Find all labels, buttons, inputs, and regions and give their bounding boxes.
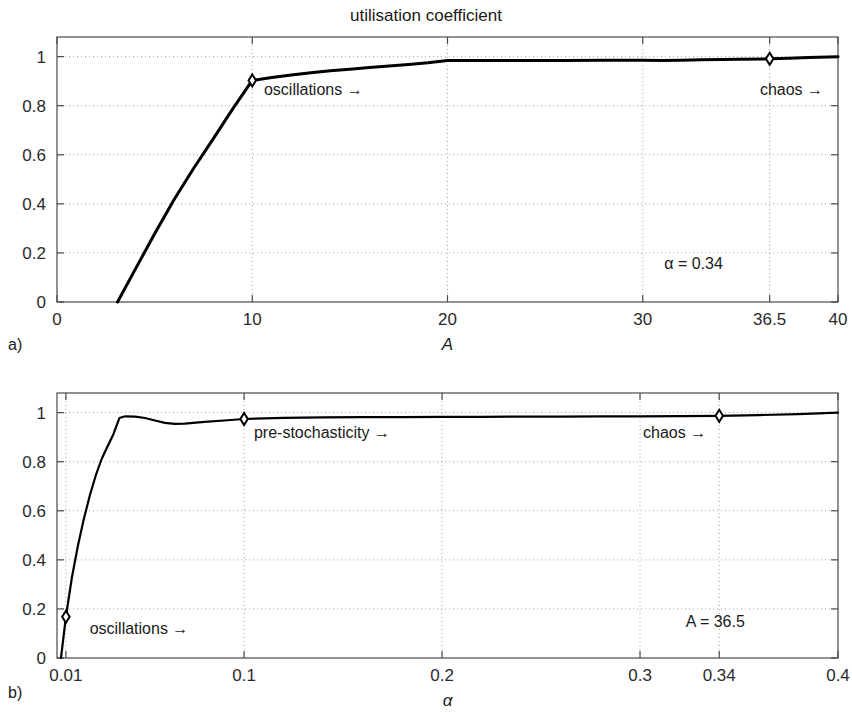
- x-tick-label: 0.2: [430, 666, 454, 685]
- chaos-annotation: chaos →: [643, 424, 706, 441]
- y-tick-label: 0.6: [22, 146, 46, 165]
- figure-utilisation-coefficient: utilisation coefficient 00.20.40.60.81 0…: [0, 0, 852, 712]
- x-tick-label: 0.1: [232, 666, 256, 685]
- chart-panel-a: utilisation coefficient 00.20.40.60.81 0…: [0, 0, 852, 368]
- panel-letter-a: a): [8, 336, 22, 353]
- chart-panel-b: 00.20.40.60.81 0.010.10.20.30.340.4 osci…: [0, 368, 852, 712]
- y-tick-label: 0.4: [22, 551, 46, 570]
- chart-a-svg: utilisation coefficient 00.20.40.60.81 0…: [0, 0, 852, 368]
- chart-a-y-tick-labels: 00.20.40.60.81: [22, 48, 46, 312]
- y-tick-label: 0.2: [22, 600, 46, 619]
- y-tick-label: 0.4: [22, 195, 46, 214]
- y-tick-label: 0: [37, 649, 46, 668]
- x-tick-label: 0.3: [628, 666, 652, 685]
- page-title: utilisation coefficient: [350, 6, 502, 25]
- x-tick-label: 0.4: [826, 666, 850, 685]
- series-utilisation coefficient vs A: [118, 57, 838, 302]
- y-tick-label: 0.8: [22, 453, 46, 472]
- y-tick-label: 0.8: [22, 97, 46, 116]
- pre-stochasticity-marker: [240, 413, 247, 425]
- chart-b-annotations: oscillations →pre-stochasticity →chaos →…: [90, 424, 745, 637]
- chaos-marker: [766, 53, 773, 65]
- oscillations-annotation: oscillations →: [90, 620, 189, 637]
- chart-b-x-tick-labels: 0.010.10.20.30.340.4: [49, 666, 849, 685]
- panel-letter-b: b): [8, 684, 22, 701]
- pre-stochasticity-annotation: pre-stochasticity →: [254, 424, 390, 441]
- panel-a-letter-wrap: a): [0, 324, 852, 368]
- chart-b-y-tick-labels: 00.20.40.60.81: [22, 404, 46, 668]
- x-tick-label: 0.01: [49, 666, 82, 685]
- chart-a-annotations: oscillations →chaos →α = 0.34: [264, 81, 823, 273]
- alpha-parameter: α = 0.34: [664, 255, 723, 272]
- y-tick-label: 0.6: [22, 502, 46, 521]
- chart-b-x-axis-label: α: [443, 691, 454, 710]
- oscillations-marker: [62, 611, 69, 623]
- a-parameter: A = 36.5: [686, 613, 745, 630]
- chaos-marker: [715, 410, 722, 422]
- chart-b-data-markers: [62, 410, 723, 623]
- y-tick-label: 0: [37, 293, 46, 312]
- chaos-annotation: chaos →: [760, 81, 823, 98]
- chart-a-data-curve: [118, 57, 838, 302]
- chart-b-svg: 00.20.40.60.81 0.010.10.20.30.340.4 osci…: [0, 368, 852, 712]
- oscillations-annotation: oscillations →: [264, 81, 363, 98]
- x-tick-label: 0.34: [703, 666, 736, 685]
- y-tick-label: 1: [37, 48, 46, 67]
- y-tick-label: 1: [37, 404, 46, 423]
- y-tick-label: 0.2: [22, 244, 46, 263]
